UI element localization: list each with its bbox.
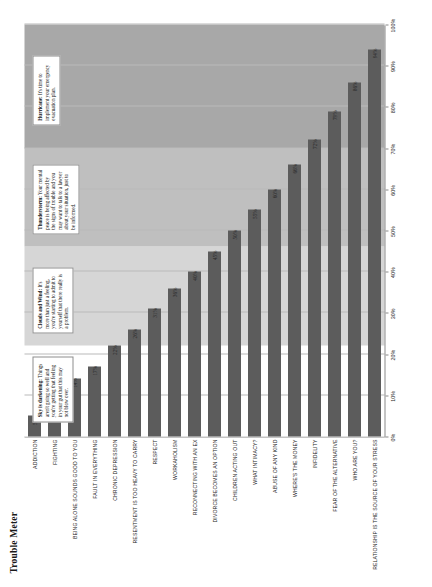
axis-tick-label: 100% bbox=[389, 18, 395, 32]
bar-value-label: 60% bbox=[271, 188, 277, 198]
bar[interactable] bbox=[168, 288, 181, 436]
axis-tick-label: 80% bbox=[389, 102, 395, 113]
category-label: CHRONIC DEPRESSION bbox=[111, 439, 117, 500]
axis-tick bbox=[385, 354, 388, 355]
axis-tick-label: 70% bbox=[389, 143, 395, 154]
bar-row: WHAT INTIMACY?55% bbox=[244, 24, 264, 436]
bar-value-label: 17% bbox=[91, 365, 97, 375]
callout-hurricane: Hurricane: It's time to implement your e… bbox=[32, 55, 60, 125]
bar[interactable] bbox=[328, 111, 341, 436]
category-label: BEING ALONE SOUNDS GOOD TO YOU bbox=[71, 439, 77, 539]
category-label: CHILDREN ACTING OUT bbox=[231, 439, 237, 500]
axis-tick bbox=[385, 106, 388, 107]
axis-tick-label: 0% bbox=[389, 433, 395, 441]
rotated-figure: Trouble Meter ADDICTION5%FIGHTING9%BEING… bbox=[0, 0, 432, 587]
bar-value-label: 72% bbox=[311, 139, 317, 149]
x-axis: 0%10%20%30%40%50%60%70%80%90%100% bbox=[384, 25, 401, 437]
category-label: WORKAHOLISM bbox=[171, 439, 177, 479]
bar-value-label: 50% bbox=[231, 229, 237, 239]
bar-value-label: 26% bbox=[131, 328, 137, 338]
bar-row: ABUSE OF ANY KIND60% bbox=[264, 24, 284, 436]
bar-row: CHILDREN ACTING OUT50% bbox=[224, 24, 244, 436]
category-label: FIGHTING bbox=[51, 439, 57, 465]
category-label: FAULT IN EVERYTHING bbox=[91, 439, 97, 498]
bar[interactable] bbox=[188, 271, 201, 436]
category-label: WHERE'S THE MONEY bbox=[291, 439, 297, 496]
callout-title: Thunderstorm: bbox=[36, 196, 42, 230]
category-label: ABUSE OF ANY KIND bbox=[271, 439, 277, 492]
category-label: DIVORCE BECOMES AN OPTION bbox=[211, 439, 217, 522]
bar-value-label: 45% bbox=[211, 250, 217, 260]
callout-clouds-and-wind: Clouds and Wind: It's more than just a f… bbox=[32, 267, 73, 333]
bar-row: WHO ARE YOU?86% bbox=[344, 24, 364, 436]
bar[interactable] bbox=[348, 82, 361, 436]
category-label: RESENTMENT IS TOO HEAVY TO CARRY bbox=[131, 439, 137, 543]
bar-row: RESPECT31% bbox=[144, 24, 164, 436]
bar[interactable] bbox=[148, 308, 161, 436]
callout-sky-is-darkening: Sky is darkening: Things aren't going so… bbox=[32, 356, 73, 422]
bar-value-label: 22% bbox=[111, 345, 117, 355]
bar-row: FAULT IN EVERYTHING17% bbox=[84, 24, 104, 436]
axis-tick bbox=[385, 395, 388, 396]
axis-tick-label: 90% bbox=[389, 61, 395, 72]
axis-tick bbox=[385, 148, 388, 149]
bar-value-label: 55% bbox=[251, 209, 257, 219]
bar-value-label: 40% bbox=[191, 271, 197, 281]
category-label: RELATIONSHIP IS THE SOURCE OF YOUR STRES… bbox=[371, 439, 377, 569]
category-label: RESPECT bbox=[151, 439, 157, 464]
plot-area: ADDICTION5%FIGHTING9%BEING ALONE SOUNDS … bbox=[24, 24, 384, 437]
axis-tick-label: 30% bbox=[389, 308, 395, 319]
axis-tick bbox=[385, 271, 388, 272]
bar-row: DIVORCE BECOMES AN OPTION45% bbox=[204, 24, 224, 436]
bar[interactable] bbox=[228, 230, 241, 436]
category-label: INFIDELITY bbox=[311, 439, 317, 468]
category-label: WHAT INTIMACY? bbox=[251, 439, 257, 484]
callout-title: Sky is darkening: bbox=[36, 379, 42, 417]
bar-value-label: 94% bbox=[371, 48, 377, 58]
axis-tick bbox=[385, 65, 388, 66]
axis-tick bbox=[385, 24, 388, 25]
bar-row: FEAR OF THE ALTERNATIVE79% bbox=[324, 24, 344, 436]
category-label: RECONNECTING WITH AN EX bbox=[191, 439, 197, 515]
bar[interactable] bbox=[108, 345, 121, 436]
bar-row: RESENTMENT IS TOO HEAVY TO CARRY26% bbox=[124, 24, 144, 436]
bar[interactable] bbox=[208, 251, 221, 436]
axis-tick-label: 20% bbox=[389, 349, 395, 360]
axis-tick-label: 10% bbox=[389, 390, 395, 401]
axis-tick-label: 60% bbox=[389, 184, 395, 195]
bar[interactable] bbox=[308, 139, 321, 436]
axis-tick-label: 50% bbox=[389, 226, 395, 237]
callout-thunderstorm: Thunderstorm: Your mental peace is being… bbox=[32, 164, 79, 234]
bar-value-label: 79% bbox=[331, 110, 337, 120]
bar[interactable] bbox=[248, 209, 261, 436]
axis-tick bbox=[385, 230, 388, 231]
bar[interactable] bbox=[368, 49, 381, 436]
bar[interactable] bbox=[268, 189, 281, 436]
category-label: WHO ARE YOU? bbox=[351, 439, 357, 480]
callout-title: Clouds and Wind: bbox=[36, 288, 42, 328]
bar-row: INFIDELITY72% bbox=[304, 24, 324, 436]
bar-row: WORKAHOLISM36% bbox=[164, 24, 184, 436]
callout-title: Hurricane: bbox=[36, 96, 42, 120]
bar-value-label: 31% bbox=[151, 308, 157, 318]
bar[interactable] bbox=[288, 164, 301, 436]
bar-value-label: 86% bbox=[351, 81, 357, 91]
axis-tick-label: 40% bbox=[389, 267, 395, 278]
axis-tick bbox=[385, 312, 388, 313]
bar-row: CHRONIC DEPRESSION22% bbox=[104, 24, 124, 436]
bar[interactable] bbox=[128, 329, 141, 436]
bar[interactable] bbox=[88, 366, 101, 436]
category-label: FEAR OF THE ALTERNATIVE bbox=[331, 439, 337, 511]
chart-title: Trouble Meter bbox=[8, 511, 18, 573]
bar-value-label: 66% bbox=[291, 164, 297, 174]
bar-row: RECONNECTING WITH AN EX40% bbox=[184, 24, 204, 436]
category-label: ADDICTION bbox=[31, 439, 37, 468]
axis-tick bbox=[385, 436, 388, 437]
trouble-meter-figure: Trouble Meter ADDICTION5%FIGHTING9%BEING… bbox=[0, 0, 432, 587]
bar-row: RELATIONSHIP IS THE SOURCE OF YOUR STRES… bbox=[364, 24, 384, 436]
axis-tick bbox=[385, 189, 388, 190]
bar-value-label: 36% bbox=[171, 287, 177, 297]
chart-screenshot: Trouble Meter ADDICTION5%FIGHTING9%BEING… bbox=[0, 0, 432, 587]
bar-row: WHERE'S THE MONEY66% bbox=[284, 24, 304, 436]
